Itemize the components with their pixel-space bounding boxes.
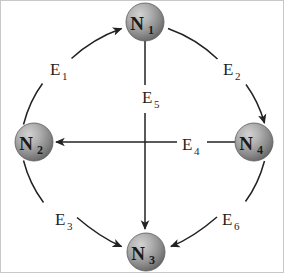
edge-E1-path-lower <box>24 84 43 125</box>
edge-label-E6-subscript: 6 <box>234 220 240 232</box>
node-N2-subscript: 2 <box>37 143 43 157</box>
node-N1[interactable]: N 1 <box>126 3 164 41</box>
edge-label-E3-text: E <box>55 210 65 229</box>
node-N1-label: N <box>130 13 144 34</box>
edge-E6-path-lower <box>171 217 217 247</box>
edge-E6-path-upper <box>246 161 265 202</box>
edge-label-E2-subscript: 2 <box>235 70 241 82</box>
edge-label-E3-subscript: 3 <box>67 220 73 232</box>
edge-E1[interactable] <box>24 29 122 125</box>
node-N4-subscript: 4 <box>257 143 263 157</box>
edge-E2-path-upper <box>168 29 218 60</box>
node-N3[interactable]: N 3 <box>127 233 165 271</box>
edge-label-E5-subscript: 5 <box>154 98 160 110</box>
edge-label-E5: E 5 <box>142 88 160 110</box>
edge-label-E6: E 6 <box>222 210 240 232</box>
edge-E2-path-lower <box>246 85 265 124</box>
edge-label-E4-subscript: 4 <box>194 145 200 157</box>
graph-diagram-figure: N 1 N 2 N 3 N 4 E 1 E 2 E 3 <box>0 0 284 273</box>
edge-label-E1: E 1 <box>50 60 68 82</box>
edge-E2[interactable] <box>168 29 265 124</box>
edge-E3-path-lower <box>77 218 122 247</box>
edge-E3[interactable] <box>24 161 122 247</box>
edge-E6[interactable] <box>171 161 265 247</box>
edge-label-E4: E 4 <box>182 135 200 157</box>
edge-E3-path-upper <box>24 161 44 203</box>
edge-label-E6-text: E <box>222 210 232 229</box>
edge-label-E5-text: E <box>142 88 152 107</box>
node-N4-label: N <box>239 133 253 154</box>
edge-label-E1-text: E <box>50 60 60 79</box>
node-N3-label: N <box>131 243 145 264</box>
edge-label-E4-text: E <box>182 135 192 154</box>
node-N3-subscript: 3 <box>149 253 155 267</box>
node-N2[interactable]: N 2 <box>15 123 53 161</box>
graph-diagram-canvas: N 1 N 2 N 3 N 4 E 1 E 2 E 3 <box>1 1 284 273</box>
edge-label-E1-subscript: 1 <box>62 70 68 82</box>
node-N4[interactable]: N 4 <box>235 123 273 161</box>
edge-E1-path-upper <box>72 29 122 59</box>
edge-label-E3: E 3 <box>55 210 73 232</box>
node-N2-label: N <box>19 133 33 154</box>
node-N1-subscript: 1 <box>148 23 154 37</box>
edge-label-E2: E 2 <box>223 60 241 82</box>
edge-label-E2-text: E <box>223 60 233 79</box>
